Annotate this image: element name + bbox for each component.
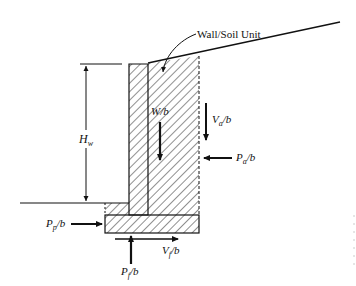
weight-label-main: W/b	[151, 105, 169, 117]
active-horizontal-main: P	[236, 151, 243, 163]
height-label: Hw	[79, 133, 93, 148]
passive-suffix: /b	[57, 217, 66, 229]
base-normal-suffix: /b	[130, 265, 139, 277]
height-label-sub: w	[88, 139, 93, 148]
base-shear-suffix: /b	[171, 244, 180, 256]
soil-wedge	[148, 56, 199, 215]
wall-stem	[129, 64, 148, 215]
base-normal-label: Pf/b	[121, 266, 139, 280]
base-shear-label: Vf/b	[162, 245, 180, 259]
active-vertical-suffix: /b	[223, 113, 232, 125]
active-horizontal-suffix: /b	[247, 151, 256, 163]
callout-label: Wall/Soil Unit	[197, 29, 261, 40]
toe-soil-block	[105, 203, 129, 215]
base-slab	[105, 215, 199, 233]
active-vertical-label: Va/b	[212, 114, 231, 128]
passive-label: Pp/b	[46, 218, 65, 232]
active-horizontal-label: Pa/b	[236, 152, 255, 166]
base-normal-main: P	[121, 265, 128, 277]
height-label-main: H	[79, 132, 88, 146]
base-shear-main: V	[162, 244, 169, 256]
passive-main: P	[46, 217, 53, 229]
active-vertical-main: V	[212, 113, 219, 125]
weight-label: W/b	[151, 106, 169, 117]
